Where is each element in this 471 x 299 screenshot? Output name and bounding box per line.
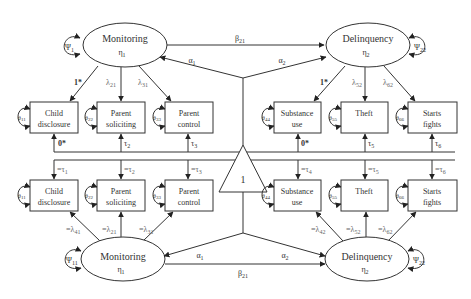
indicator-label-2b-t1: soliciting <box>106 120 136 129</box>
beta21-label-t1: β21 <box>235 34 245 44</box>
indicator-label-3b-t2: control <box>178 198 201 207</box>
indicator-label-1b-t2: disclosure <box>38 198 71 207</box>
latent-label-delinquency-t2: Delinquency <box>341 251 392 262</box>
latent-label-delinquency-t1: Delinquency <box>342 33 393 44</box>
indicator-label-1a-t2: Child <box>45 187 63 196</box>
error-label-2-t2: θ22 <box>85 193 93 200</box>
indicator-label-2a-t1: Parent <box>111 109 132 118</box>
loading-substance-use-t2 <box>316 212 343 241</box>
indicator-label-4b-t2: use <box>292 198 303 207</box>
latent-label-monitoring-t1: Monitoring <box>102 33 148 44</box>
error-label-4-t2: θ44 <box>262 193 270 200</box>
intercept-label-1-t2: =τ1 <box>57 165 68 175</box>
error-label-3-t1: θ33 <box>153 115 161 122</box>
constant-label: 1 <box>241 174 246 185</box>
loading-label-4-t1: 1* <box>320 78 328 87</box>
alpha2-label-t1: α2 <box>278 56 285 66</box>
loading-substance-use-t1 <box>314 66 345 101</box>
latent-label-monitoring-t2: Monitoring <box>100 251 146 262</box>
indicator-label-3a-t2: Parent <box>179 187 200 196</box>
sem-diagram: Monitoring η1 Delinquency η2 Ψ1 Ψ22 β21 … <box>0 0 471 299</box>
loading-label-6-t1: λ62 <box>383 78 393 88</box>
intercept-label-3-t2: =τ3 <box>191 165 202 175</box>
loading-starts-fights-t2 <box>388 212 416 241</box>
intercept-label-5-t2: =τ5 <box>368 165 379 175</box>
intercept-label-1-t1: 0* <box>58 139 66 148</box>
loading-label-5-t1: λ52 <box>352 78 362 88</box>
intercept-label-4-t1: 0* <box>301 139 309 148</box>
indicator-label-1b-t1: disclosure <box>38 120 71 129</box>
latent-delinquency-t1 <box>326 23 410 67</box>
path-alpha1-t1 <box>160 57 243 78</box>
alpha1-label-t2: α1 <box>196 251 203 261</box>
intercept-label-2-t2: =τ2 <box>124 165 135 175</box>
loading-label-6-t2: =λ62 <box>378 225 392 235</box>
alpha1-label-t1: α1 <box>188 56 195 66</box>
indicator-label-4a-t1: Substance <box>281 109 314 118</box>
intercept-label-6-t2: =τ6 <box>435 165 446 175</box>
path-alpha1-t2 <box>164 233 243 256</box>
intercept-label-4-t2: =τ4 <box>301 165 312 175</box>
loading-parent-control-t2 <box>143 212 173 241</box>
indicator-label-6a-t2: Starts <box>423 187 441 196</box>
indicator-label-2a-t2: Parent <box>111 187 132 196</box>
indicator-label-5a-t1: Theft <box>355 109 373 118</box>
indicator-label-1a-t1: Child <box>45 109 63 118</box>
loading-child-disclosure-t2 <box>70 212 100 241</box>
indicator-label-5a-t2: Theft <box>355 187 373 196</box>
loading-label-2-t2: =λ21 <box>102 225 116 235</box>
indicator-label-4b-t1: use <box>292 120 303 129</box>
indicator-label-4a-t2: Substance <box>281 187 314 196</box>
loading-label-4-t2: =λ42 <box>311 225 325 235</box>
beta21-label-t2: β21 <box>238 269 248 279</box>
indicator-label-3b-t1: control <box>178 120 201 129</box>
error-label-4-t1: θ44 <box>262 115 270 122</box>
error-label-1-t2: θ11 <box>18 193 26 200</box>
variance-label-monitoring-t1: Ψ1 <box>65 43 74 53</box>
alpha2-label-t2: α2 <box>281 251 288 261</box>
loading-label-1-t2: =λ41 <box>66 225 80 235</box>
error-label-6-t2: θ66 <box>396 193 404 200</box>
error-label-1-t1: θ11 <box>18 115 26 122</box>
error-label-2-t1: θ22 <box>85 115 93 122</box>
indicator-label-6b-t1: fights <box>423 120 441 129</box>
loading-label-2-t1: λ21 <box>106 78 116 88</box>
error-label-5-t2: θ55 <box>329 193 337 200</box>
intercept-label-5-t1: τ5 <box>368 139 374 149</box>
variance-label-monitoring-t2: Ψ11 <box>66 256 78 266</box>
loading-label-3-t1: λ31 <box>138 78 148 88</box>
indicator-label-6a-t1: Starts <box>423 109 441 118</box>
error-label-5-t1: θ55 <box>329 115 337 122</box>
error-label-3-t2: θ33 <box>153 193 161 200</box>
loading-label-5-t2: =λ52 <box>346 225 360 235</box>
intercept-label-3-t1: τ3 <box>191 139 197 149</box>
intercept-label-6-t1: τ6 <box>435 139 441 149</box>
intercept-label-2-t1: τ2 <box>124 139 130 149</box>
latent-monitoring-t1 <box>83 23 167 67</box>
indicator-label-3a-t1: Parent <box>179 109 200 118</box>
loading-label-1-t1: 1* <box>74 78 82 87</box>
loading-label-3-t2: =λ31 <box>139 225 153 235</box>
indicator-label-6b-t2: fights <box>423 198 441 207</box>
indicator-label-2b-t2: soliciting <box>106 198 136 207</box>
error-label-6-t1: θ66 <box>396 115 404 122</box>
